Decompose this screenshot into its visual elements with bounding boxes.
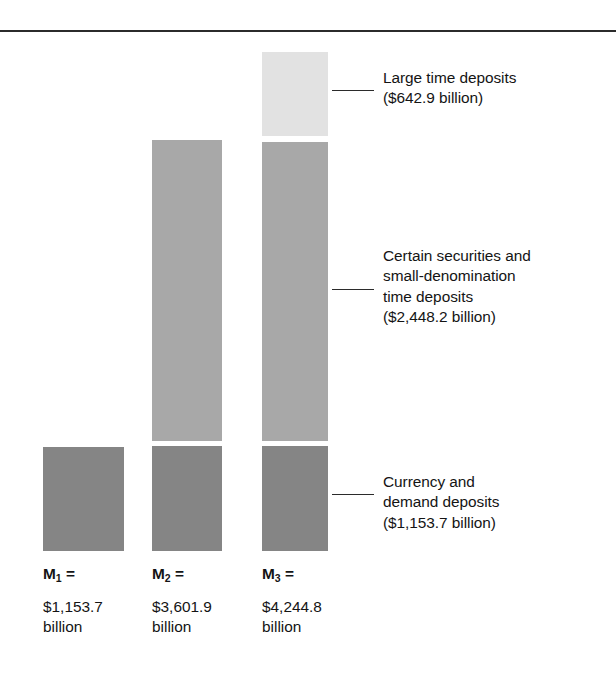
category-value-m1-line-1: $1,153.7 bbox=[43, 597, 103, 618]
callout-currency-and-demand-deposits-line-3: ($1,153.7 billion) bbox=[383, 513, 499, 533]
category-label-m3-name-suffix: = bbox=[281, 565, 294, 582]
top-divider-rule bbox=[0, 30, 616, 32]
callout-large-time-deposits-line-2: ($642.9 billion) bbox=[383, 88, 516, 108]
bar-segment-m3-large-time-deposits bbox=[262, 52, 328, 136]
bar-segment-m1-currency-and-demand-deposits bbox=[43, 447, 124, 551]
category-label-m3-name-prefix: M bbox=[262, 565, 275, 582]
callout-certain-securities: Certain securities and small-denominatio… bbox=[383, 246, 531, 328]
leader-line-currency-and-demand-deposits bbox=[332, 494, 374, 495]
callout-certain-securities-line-2: small-denomination bbox=[383, 266, 531, 286]
category-value-m2-line-1: $3,601.9 bbox=[152, 597, 212, 618]
bar-group-m1 bbox=[43, 447, 124, 551]
category-label-m2-name-prefix: M bbox=[152, 565, 165, 582]
callout-certain-securities-line-3: time deposits bbox=[383, 287, 531, 307]
bar-segment-m2-certain-securities-and-small-denomination-time-deposits bbox=[152, 140, 222, 441]
callout-currency-and-demand-deposits-line-1: Currency and bbox=[383, 472, 499, 492]
category-label-m2-name: M2 = bbox=[152, 564, 212, 586]
category-label-m2: M2 = $3,601.9 billion bbox=[152, 564, 212, 638]
category-label-m1-name-subscript: 1 bbox=[56, 572, 62, 584]
category-value-m2-line-2: billion bbox=[152, 617, 212, 638]
category-label-m1: M1 = $1,153.7 billion bbox=[43, 564, 103, 638]
category-label-m1-name: M1 = bbox=[43, 564, 103, 586]
category-label-m3-name-subscript: 3 bbox=[275, 572, 281, 584]
category-label-m1-name-suffix: = bbox=[62, 565, 75, 582]
leader-line-certain-securities bbox=[332, 289, 374, 290]
callout-large-time-deposits-line-1: Large time deposits bbox=[383, 68, 516, 88]
bar-segment-m3-certain-securities-and-small-denomination-time-deposits bbox=[262, 142, 328, 441]
callout-currency-and-demand-deposits: Currency and demand deposits ($1,153.7 b… bbox=[383, 472, 499, 533]
category-label-m3: M3 = $4,244.8 billion bbox=[262, 564, 322, 638]
category-label-m2-name-subscript: 2 bbox=[165, 572, 171, 584]
category-label-m1-name-prefix: M bbox=[43, 565, 56, 582]
bar-segment-m3-currency-and-demand-deposits bbox=[262, 446, 328, 551]
callout-currency-and-demand-deposits-line-2: demand deposits bbox=[383, 492, 499, 512]
category-label-m3-name: M3 = bbox=[262, 564, 322, 586]
category-value-m3-line-2: billion bbox=[262, 617, 322, 638]
category-value-m3-line-1: $4,244.8 bbox=[262, 597, 322, 618]
category-value-m1-line-2: billion bbox=[43, 617, 103, 638]
category-label-m2-name-suffix: = bbox=[171, 565, 184, 582]
money-supply-stacked-bar-chart: Large time deposits ($642.9 billion) Cer… bbox=[0, 0, 616, 674]
callout-certain-securities-line-1: Certain securities and bbox=[383, 246, 531, 266]
leader-line-large-time-deposits bbox=[332, 90, 374, 91]
bar-segment-m2-currency-and-demand-deposits bbox=[152, 446, 222, 551]
bar-group-m2 bbox=[152, 140, 222, 551]
callout-large-time-deposits: Large time deposits ($642.9 billion) bbox=[383, 68, 516, 109]
callout-certain-securities-line-4: ($2,448.2 billion) bbox=[383, 307, 531, 327]
bar-group-m3 bbox=[262, 52, 328, 551]
